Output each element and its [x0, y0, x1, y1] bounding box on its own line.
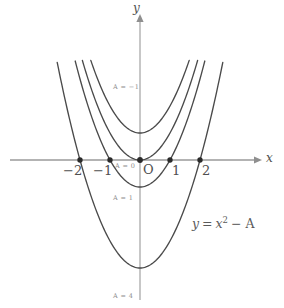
equation-equals: =	[202, 216, 212, 231]
equation-minus-a: − A	[231, 216, 254, 231]
figure-canvas: x y −2 −1 O 1 2 A = −1 A = 0 A = 1 A = 4…	[0, 0, 284, 308]
y-axis	[136, 14, 143, 300]
curve-label-a-1: A = 1	[113, 195, 133, 202]
x-axis-label: x	[266, 152, 273, 164]
x-axis-arrow-icon	[254, 156, 262, 163]
parabola-family-plot	[0, 0, 284, 308]
y-axis-label: y	[133, 2, 140, 14]
curve-label-a-4: A = 4	[113, 293, 133, 300]
point-x-neg1	[107, 157, 112, 162]
equation-x: x	[216, 216, 223, 231]
curve-label-a-0: A = 0	[115, 163, 135, 170]
curve-label-a-neg1: A = −1	[113, 84, 139, 91]
equation-annotation: y=x2− A	[192, 216, 255, 231]
x-tick-label-pos1: 1	[172, 164, 180, 177]
x-tick-label-pos2: 2	[202, 164, 210, 177]
point-x-pos2	[197, 157, 202, 162]
equation-y: y	[192, 216, 199, 231]
point-x-pos1	[167, 157, 172, 162]
x-tick-label-neg2: −2	[63, 164, 82, 177]
y-axis-arrow-icon	[136, 14, 143, 22]
equation-exponent: 2	[223, 215, 228, 225]
origin-label: O	[143, 163, 154, 176]
x-tick-label-neg1: −1	[93, 164, 112, 177]
point-x-neg2	[77, 157, 82, 162]
